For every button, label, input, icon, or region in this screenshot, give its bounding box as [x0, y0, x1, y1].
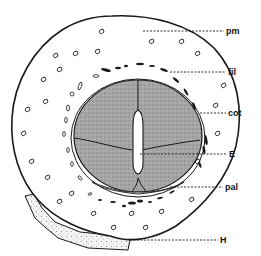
label-E: E	[229, 150, 235, 159]
label-pal: pal	[225, 183, 238, 192]
label-pm: pm	[226, 27, 240, 36]
label-fil: fil	[228, 68, 236, 77]
embryo	[133, 110, 143, 174]
seed-cross-section-diagram	[0, 0, 261, 256]
label-H: H	[220, 236, 227, 245]
label-cot: cot	[228, 109, 242, 118]
